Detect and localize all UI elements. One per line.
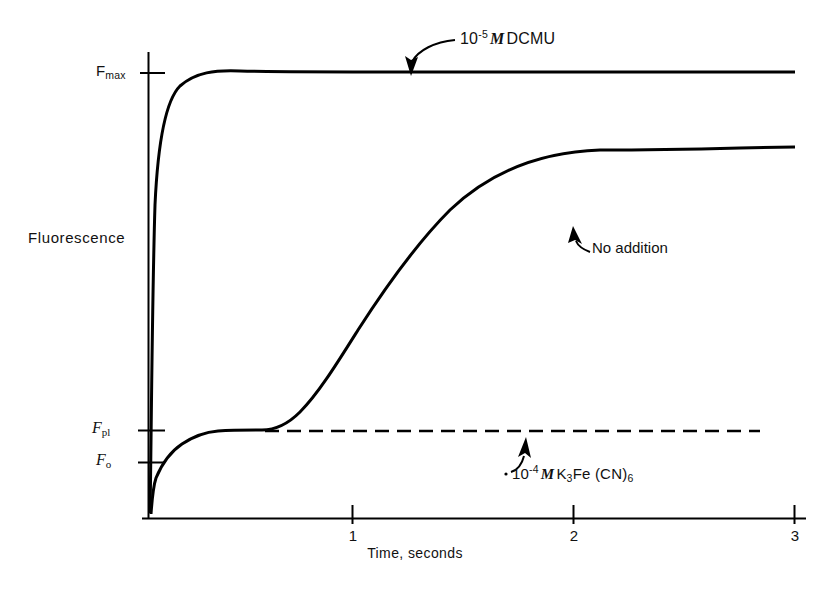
annotation-ferricyanide: 10-4MK3Fe (CN)6 — [512, 463, 633, 484]
x-tick-label-2: 2 — [570, 527, 578, 544]
no-addition-arrow-curve — [576, 241, 590, 252]
annotation-no-addition: No addition — [592, 239, 668, 256]
fmax-base: F — [96, 62, 105, 79]
chart-plot-area — [0, 0, 833, 596]
ferricyanide-label-dot — [504, 472, 507, 475]
x-tick-label-3: 3 — [791, 527, 799, 544]
x-axis-title: Time, seconds — [367, 545, 463, 561]
no-addition-arrow-head — [568, 226, 582, 244]
dcmu-prefix: 10 — [460, 30, 478, 47]
fo-subscript: o — [106, 458, 112, 470]
dcmu-exponent: -5 — [478, 28, 488, 40]
ferri-exponent: -4 — [529, 463, 539, 475]
fpl-base: F — [92, 419, 102, 436]
series-line-dcmu — [150, 71, 795, 513]
series-line-no-addition — [151, 147, 795, 514]
dcmu-arrow-curve — [412, 40, 455, 62]
y-tick-label-fpl: Fpl — [92, 419, 110, 438]
y-axis-title: Fluorescence — [28, 229, 125, 246]
fmax-subscript: max — [105, 69, 126, 81]
y-tick-label-fmax: Fmax — [96, 62, 126, 81]
x-tick-label-1: 1 — [349, 527, 357, 544]
fluorescence-induction-figure: Fluorescence Fmax Fpl Fo 1 2 3 Time, sec… — [0, 0, 833, 596]
fo-base: F — [96, 451, 106, 468]
ferri-molarity-symbol: M — [539, 466, 557, 482]
ferricyanide-arrow-head — [518, 437, 531, 458]
ferri-formula-k: K — [556, 465, 566, 482]
dcmu-compound: DCMU — [506, 30, 555, 47]
ferri-formula-fe-subscript: 6 — [627, 472, 633, 484]
ferri-formula-fe: Fe (CN) — [573, 465, 628, 482]
y-tick-label-fo: Fo — [96, 451, 111, 470]
annotation-dcmu: 10-5MDCMU — [460, 28, 555, 48]
dcmu-molarity-symbol: M — [488, 30, 506, 47]
fpl-subscript: pl — [102, 426, 111, 438]
ferri-prefix: 10 — [512, 465, 529, 482]
